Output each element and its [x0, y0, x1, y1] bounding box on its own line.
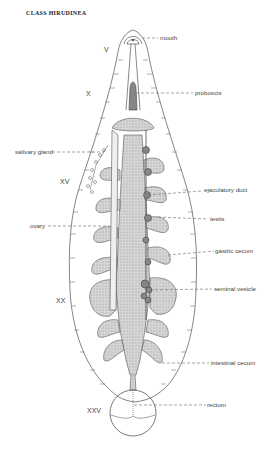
segment-label-x: X	[86, 90, 91, 97]
label-salivary-gland: salivary gland	[15, 149, 53, 155]
label-proboscis: proboscis	[195, 90, 221, 96]
mouth-structure	[124, 37, 142, 45]
label-ovary: ovary	[30, 223, 45, 229]
label-rectum: rectum	[207, 402, 226, 408]
label-testis: testis	[210, 216, 224, 222]
proboscis-shape	[129, 82, 137, 110]
label-ejaculatory-duct: ejaculatory duct	[204, 187, 247, 193]
segment-label-v: V	[104, 46, 109, 53]
segment-label-xv: XV	[60, 178, 69, 185]
label-mouth: mouth	[160, 35, 177, 41]
segment-label-xxv: XXV	[87, 407, 101, 414]
label-seminal-vesicle: seminal vesicle	[214, 286, 256, 292]
segment-label-xx: XX	[56, 297, 65, 304]
label-gastric-cecum: gastric cecum	[215, 248, 253, 254]
label-intestinal-cecum: intestinal cecum	[211, 360, 255, 366]
